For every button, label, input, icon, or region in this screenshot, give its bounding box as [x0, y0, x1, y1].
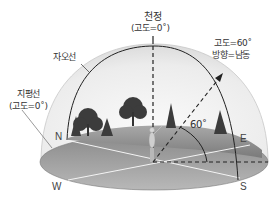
zenith-subtitle: (고도=0˚) — [131, 23, 170, 34]
zenith-title: 천정 — [144, 11, 161, 22]
direction-south: S — [240, 181, 247, 192]
horizon-title: 지평선 — [17, 89, 40, 100]
direction-north: N — [55, 131, 62, 142]
star-direction-label: 방향=남동 — [212, 50, 250, 61]
star-altitude-label: 고도=60˚ — [214, 38, 252, 49]
horizon-subtitle: (고도=0˚) — [9, 101, 48, 112]
meridian-label: 자오선 — [53, 52, 76, 63]
direction-east: E — [240, 133, 247, 144]
angle-label: 60˚ — [190, 119, 207, 130]
direction-west: W — [52, 181, 61, 192]
